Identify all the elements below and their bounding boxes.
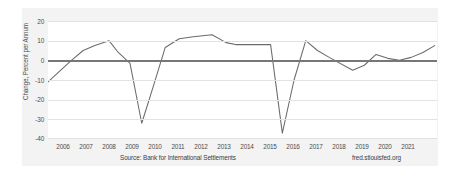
source-caption: Source: Bank for International Settlemen… [120,154,236,161]
xtick-label: 2021 [393,143,423,150]
y-axis-title: Change, Percent per Annum [22,7,29,117]
ytick-label: -40 [20,135,44,142]
ytick-label: -30 [20,116,44,123]
fred-brand-label[interactable]: fred.stlouisfed.org [352,154,401,161]
fred-chart-figure: 20 10 0 -10 -20 -30 -40 Change, Percent … [0,0,450,174]
y-axis-tick-labels: 20 10 0 -10 -20 -30 -40 Change, Percent … [0,0,450,174]
